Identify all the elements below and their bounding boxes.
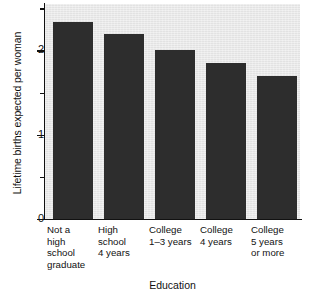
y-axis-line bbox=[44, 3, 45, 220]
y-tick-minor bbox=[40, 177, 45, 178]
bar-college-1-3-years bbox=[155, 50, 195, 219]
plot-area bbox=[45, 4, 300, 219]
bar-college-4-years bbox=[206, 63, 246, 219]
bar-not-a-high-school-graduate bbox=[53, 22, 93, 219]
x-axis-label: College 1–3 years bbox=[149, 224, 200, 247]
y-tick-label: 2 bbox=[14, 43, 44, 55]
x-axis-label: High school 4 years bbox=[98, 224, 149, 259]
x-axis-category-labels: Not a high school graduateHigh school 4 … bbox=[45, 224, 300, 276]
bar-chart-figure: Lifetime births expected per woman 012 N… bbox=[0, 0, 310, 299]
bar-college-5-years-or-more bbox=[257, 76, 297, 219]
x-axis-label: College 5 years or more bbox=[251, 224, 302, 259]
y-tick-label: 1 bbox=[14, 128, 44, 140]
x-axis-line bbox=[44, 219, 302, 220]
x-axis-title: Education bbox=[45, 279, 300, 291]
x-axis-label: College 4 years bbox=[200, 224, 251, 247]
y-axis-title: Lifetime births expected per woman bbox=[11, 4, 23, 222]
y-tick-label: 0 bbox=[14, 212, 44, 224]
y-tick-minor bbox=[40, 93, 45, 94]
y-tick-minor bbox=[40, 8, 45, 9]
x-axis-label: Not a high school graduate bbox=[47, 224, 98, 270]
bar-high-school-4-years bbox=[104, 34, 144, 219]
